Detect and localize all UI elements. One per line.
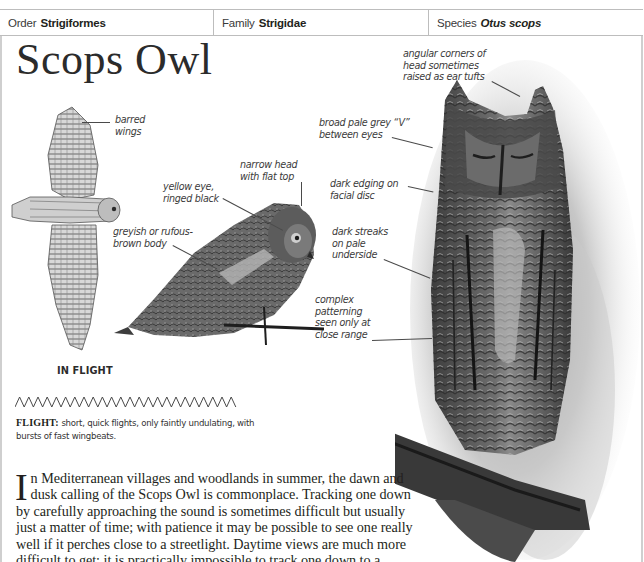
annotation-body-colour: greyish or rufous- brown body xyxy=(113,226,193,249)
species-value: Otus scops xyxy=(481,17,542,29)
drop-cap: I xyxy=(15,472,28,502)
flight-label: FLIGHT: xyxy=(16,417,59,428)
annotation-narrow-head: narrow head with flat top xyxy=(240,159,297,182)
order-label: Order xyxy=(8,17,36,29)
leader-barred-wings xyxy=(82,122,110,123)
flight-description: FLIGHT: short, quick flights, only faint… xyxy=(16,416,256,443)
annotation-facial-disc: dark edging on facial disc xyxy=(330,178,398,201)
order-value: Strigiformes xyxy=(40,17,105,29)
annotation-ear-tufts: angular corners of head sometimes raised… xyxy=(403,48,486,83)
species-label: Species xyxy=(437,17,477,29)
taxon-species: Species Otus scops xyxy=(428,10,643,35)
annotation-streaks: dark streaks on pale underside xyxy=(332,226,388,261)
annotation-yellow-eye: yellow eye, ringed black xyxy=(163,181,219,204)
family-value: Strigidae xyxy=(259,17,306,29)
page-left-border xyxy=(0,9,2,562)
flying-owl-illustration xyxy=(10,105,122,355)
description-text: n Mediterranean villages and woodlands i… xyxy=(16,470,413,562)
leader-narrow-head xyxy=(301,182,302,206)
flight-caption: IN FLIGHT xyxy=(57,365,113,376)
taxonomy-bar: Order Strigiformes Family Strigidae Spec… xyxy=(0,9,643,36)
portrait-owl-photo xyxy=(395,60,643,562)
annotation-barred-wings: barred wings xyxy=(115,114,145,137)
taxon-order: Order Strigiformes xyxy=(0,10,213,35)
taxon-family: Family Strigidae xyxy=(213,10,428,35)
annotation-patterning: complex patterning seen only at close ra… xyxy=(315,294,370,340)
family-label: Family xyxy=(222,17,255,29)
species-description: In Mediterranean villages and woodlands … xyxy=(16,470,416,562)
zigzag-flight-icon xyxy=(15,396,237,408)
annotation-pale-v: broad pale grey “V” between eyes xyxy=(319,117,409,140)
page-title: Scops Owl xyxy=(16,38,212,82)
perched-owl-illustration xyxy=(114,195,324,350)
